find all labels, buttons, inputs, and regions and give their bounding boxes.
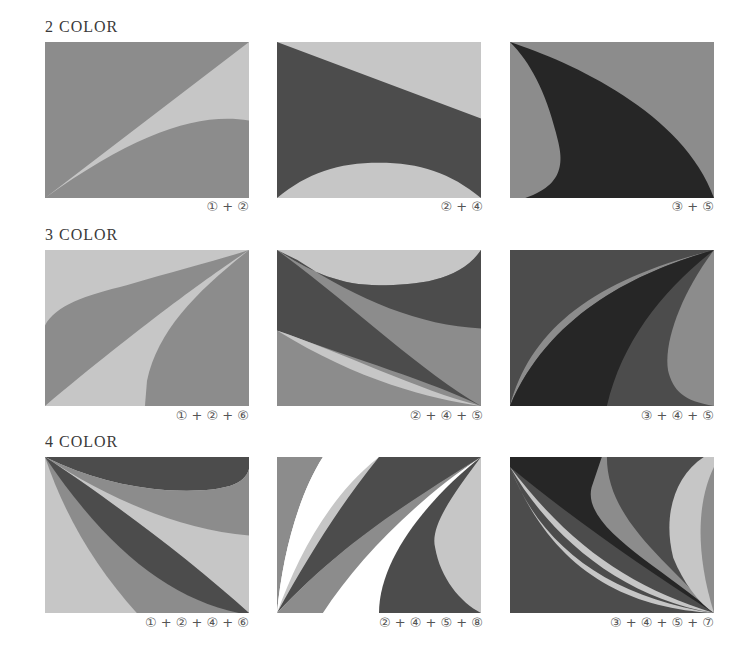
swatch-caption: ② + ④ + ⑤ — [277, 408, 483, 423]
color-swatch-2-4-5-8 — [277, 457, 481, 613]
color-swatch-2-4 — [277, 42, 481, 198]
swatch-caption: ② + ④ — [277, 199, 483, 214]
section-title-2-color: 2 COLOR — [45, 18, 118, 36]
color-swatch-3-4-5-7 — [510, 457, 714, 613]
color-swatch-1-2 — [45, 42, 249, 198]
swatch-caption: ③ + ④ + ⑤ + ⑦ — [510, 615, 714, 630]
swatch-caption: ② + ④ + ⑤ + ⑧ — [277, 615, 483, 630]
section-title-3-color: 3 COLOR — [45, 226, 118, 244]
color-swatch-3-5 — [510, 42, 714, 198]
swatch-caption: ③ + ⑤ — [510, 199, 714, 214]
swatch-caption: ① + ② + ⑥ — [45, 408, 249, 423]
section-title-4-color: 4 COLOR — [45, 433, 118, 451]
color-swatch-3-4-5 — [510, 250, 714, 406]
color-swatch-2-4-5 — [277, 250, 481, 406]
color-swatch-1-2-4-6 — [45, 457, 249, 613]
swatch-caption: ③ + ④ + ⑤ — [510, 408, 714, 423]
swatch-caption: ① + ② — [45, 199, 249, 214]
swatch-caption: ① + ② + ④ + ⑥ — [45, 615, 249, 630]
color-swatch-1-2-6 — [45, 250, 249, 406]
